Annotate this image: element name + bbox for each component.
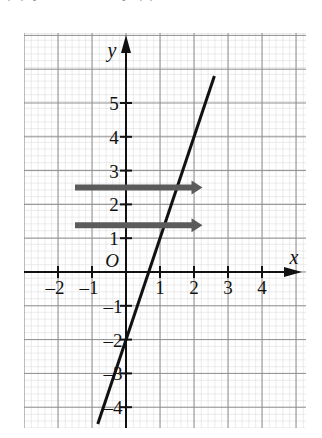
svg-text:x: x: [289, 246, 299, 268]
svg-text:1: 1: [155, 277, 165, 298]
svg-text:3: 3: [109, 161, 119, 182]
svg-text:y: y: [106, 39, 117, 62]
minor-gridlines: [24, 33, 306, 428]
svg-text:–1: –1: [79, 277, 99, 298]
cropped-header-text: (c) y = 3x − 2 y ( ): [0, 0, 322, 16]
svg-text:–3: –3: [103, 363, 123, 384]
graph-svg: –2–1123454321–1–2–3–4Oyx: [24, 33, 306, 428]
svg-text:–1: –1: [103, 296, 123, 317]
svg-text:5: 5: [109, 93, 119, 114]
svg-text:–2: –2: [45, 277, 65, 298]
svg-text:–2: –2: [103, 330, 123, 351]
svg-text:2: 2: [189, 277, 199, 298]
svg-text:O: O: [105, 250, 119, 271]
cropped-header-text-value: (c) y = 3x − 2 y ( ): [6, 0, 158, 2]
figure-container: (c) y = 3x − 2 y ( ) –2–1123454321–1–2–3…: [0, 0, 322, 438]
svg-text:1: 1: [109, 228, 119, 249]
svg-text:–4: –4: [103, 397, 124, 418]
svg-text:2: 2: [109, 194, 119, 215]
svg-text:3: 3: [223, 277, 233, 298]
svg-text:4: 4: [109, 127, 119, 148]
svg-text:4: 4: [257, 277, 267, 298]
coordinate-grid-plot: –2–1123454321–1–2–3–4Oyx: [24, 33, 306, 428]
